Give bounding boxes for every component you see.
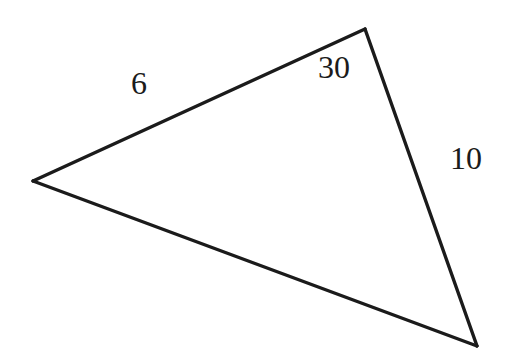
side-length-label-10: 10 — [450, 142, 482, 174]
canvas-background — [0, 0, 510, 359]
angle-label-30: 30 — [318, 51, 350, 83]
triangle-figure: 6 30 10 — [0, 0, 510, 359]
side-length-label-6: 6 — [131, 67, 147, 99]
triangle-canvas — [0, 0, 510, 359]
